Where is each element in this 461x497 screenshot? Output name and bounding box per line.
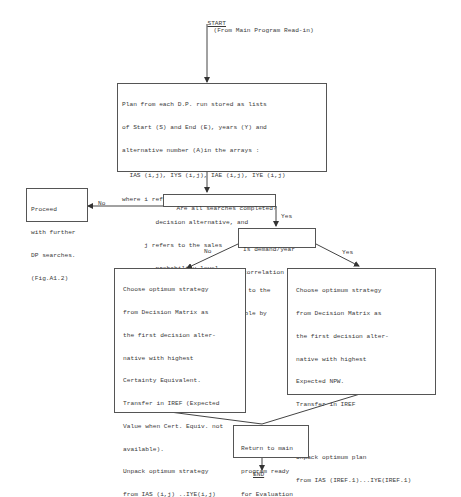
decision-line: Is demand/year — [243, 246, 311, 254]
decision-searches-completed: Are all searches completed? — [163, 194, 276, 207]
start-terminal: START (From Main Program Read-in) — [200, 13, 314, 34]
left-line: from IAS (i,j) ..IYE(i,j) — [123, 491, 237, 497]
right-line: the first decision alter- — [296, 333, 427, 341]
left-line: from Decision Matrix as — [123, 309, 237, 317]
proceed-box: Proceed with further DP searches. (Fig.A… — [26, 188, 88, 222]
decision-text: Are all searches completed? — [176, 205, 276, 212]
decision-correlation: Is demand/year correlation 0.0 — [238, 228, 316, 248]
right-line: native with highest — [296, 356, 427, 364]
left-line: Unpack optimum strategy — [123, 468, 237, 476]
searches-no-label: No — [98, 200, 105, 207]
plan-storage-box: Plan from each D.P. run stored as lists … — [117, 83, 327, 172]
return-line: program ready — [241, 468, 301, 476]
proceed-line: Proceed — [31, 206, 83, 214]
right-line: Unpack optimum plan — [296, 454, 427, 462]
left-strategy-box: Choose optimum strategy from Decision Ma… — [114, 268, 246, 413]
start-note: (From Main Program Read-in) — [213, 27, 313, 34]
left-line: Transfer in IREF (Expected — [123, 400, 237, 408]
right-line: from Decision Matrix as — [296, 310, 427, 318]
left-line: available). — [123, 446, 237, 454]
proceed-line: DP searches. — [31, 252, 83, 260]
right-line: Expected NPW. — [296, 378, 427, 386]
return-line: for Evaluation — [241, 491, 301, 497]
searches-yes-label: Yes — [281, 213, 292, 220]
right-line: from IAS (IREF.1)...IYE(IREF.1) — [296, 477, 427, 485]
correlation-yes-label: Yes — [342, 249, 353, 256]
left-line: native with highest — [123, 355, 237, 363]
start-label: START — [207, 20, 226, 27]
plan-line: of Start (S) and End (E), years (Y) and — [122, 124, 322, 132]
return-line: Return to main — [241, 445, 301, 453]
end-terminal: END — [253, 471, 264, 478]
left-line: the first decision alter- — [123, 332, 237, 340]
right-line: Choose optimum strategy — [296, 287, 427, 295]
correlation-no-label: No — [204, 248, 211, 255]
plan-arrays-line: IAS (i,j), IYS (i,j), IAE (i,j), IYE (i,… — [122, 172, 322, 180]
plan-line: decision alternative, and — [122, 219, 322, 227]
left-line: Certainty Equivalent. — [123, 377, 237, 385]
proceed-line: (Fig.A1.2) — [31, 275, 83, 283]
right-strategy-box: Choose optimum strategy from Decision Ma… — [287, 268, 436, 395]
spacer — [296, 424, 427, 439]
right-line: Transfer in IREF — [296, 401, 427, 409]
plan-line: Plan from each D.P. run stored as lists — [122, 101, 322, 109]
proceed-line: with further — [31, 229, 83, 237]
left-line: Choose optimum strategy — [123, 286, 237, 294]
return-box: Return to main program ready for Evaluat… — [233, 425, 309, 458]
left-line: Value when Cert. Equiv. not — [123, 423, 237, 431]
plan-line: alternative number (A)in the arrays : — [122, 147, 322, 155]
